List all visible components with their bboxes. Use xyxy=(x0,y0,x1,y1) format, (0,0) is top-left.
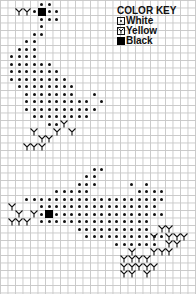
white-stitch-icon xyxy=(108,205,111,208)
white-stitch-icon xyxy=(153,190,156,193)
white-stitch-icon xyxy=(100,213,103,216)
white-stitch-icon xyxy=(115,213,118,216)
white-stitch-icon xyxy=(85,220,88,223)
key-item-black: Black xyxy=(117,36,176,46)
white-stitch-icon xyxy=(138,213,141,216)
white-stitch-icon xyxy=(115,243,118,246)
white-stitch-icon xyxy=(78,108,81,111)
white-stitch-icon xyxy=(85,115,88,118)
cross-stitch-chart: COLOR KEY White Yellow Black xyxy=(0,0,196,294)
yellow-stitch-icon xyxy=(128,270,136,278)
white-stitch-icon xyxy=(78,190,81,193)
yellow-stitch-icon xyxy=(23,8,31,16)
white-stitch-icon xyxy=(55,93,58,96)
white-stitch-icon xyxy=(78,220,81,223)
white-stitch-icon xyxy=(100,205,103,208)
white-stitch-icon xyxy=(55,205,58,208)
white-stitch-icon xyxy=(93,220,96,223)
yellow-stitch-icon xyxy=(150,248,158,256)
yellow-stitch-icon xyxy=(150,263,158,271)
color-key: COLOR KEY White Yellow Black xyxy=(117,6,176,46)
white-stitch-icon xyxy=(130,235,133,238)
white-stitch-icon xyxy=(115,235,118,238)
white-stitch-icon xyxy=(40,85,43,88)
white-stitch-icon xyxy=(100,220,103,223)
white-stitch-icon xyxy=(85,213,88,216)
white-stitch-icon xyxy=(123,198,126,201)
white-stitch-icon xyxy=(70,100,73,103)
white-stitch-icon xyxy=(123,235,126,238)
black-stitch-icon xyxy=(45,210,53,218)
white-stitch-icon xyxy=(40,25,43,28)
yellow-stitch-icon xyxy=(165,248,173,256)
white-stitch-icon xyxy=(48,205,51,208)
white-stitch-icon xyxy=(55,108,58,111)
white-stitch-icon xyxy=(100,235,103,238)
white-stitch-icon xyxy=(108,213,111,216)
white-stitch-icon xyxy=(130,213,133,216)
white-stitch-icon xyxy=(130,228,133,231)
white-stitch-icon xyxy=(40,220,43,223)
white-stitch-icon xyxy=(25,70,28,73)
white-stitch-icon xyxy=(145,243,148,246)
white-stitch-icon xyxy=(48,198,51,201)
white-stitch-icon xyxy=(93,235,96,238)
white-stitch-icon xyxy=(40,3,43,6)
white-stitch-icon xyxy=(93,205,96,208)
white-stitch-icon xyxy=(123,213,126,216)
white-stitch-icon xyxy=(130,220,133,223)
white-stitch-icon xyxy=(130,243,133,246)
white-stitch-icon xyxy=(93,228,96,231)
white-stitch-icon xyxy=(48,3,51,6)
white-stitch-icon xyxy=(63,85,66,88)
white-stitch-icon xyxy=(55,190,58,193)
white-stitch-icon xyxy=(160,213,163,216)
white-stitch-icon xyxy=(138,243,141,246)
white-stitch-icon xyxy=(85,190,88,193)
white-stitch-icon xyxy=(145,213,148,216)
white-stitch-icon xyxy=(85,235,88,238)
white-stitch-icon xyxy=(108,220,111,223)
white-stitch-icon xyxy=(63,78,66,81)
white-stitch-icon xyxy=(85,183,88,186)
white-stitch-icon xyxy=(55,198,58,201)
white-stitch-icon xyxy=(40,100,43,103)
white-stitch-icon xyxy=(55,78,58,81)
yellow-stitch-icon xyxy=(143,270,151,278)
white-stitch-icon xyxy=(70,220,73,223)
white-stitch-icon xyxy=(63,93,66,96)
white-stitch-icon xyxy=(40,198,43,201)
white-stitch-icon xyxy=(115,205,118,208)
white-stitch-icon xyxy=(70,85,73,88)
white-stitch-icon xyxy=(153,205,156,208)
white-stitch-icon xyxy=(100,198,103,201)
white-stitch-icon xyxy=(70,108,73,111)
white-stitch-icon xyxy=(40,33,43,36)
white-stitch-icon xyxy=(25,78,28,81)
white-stitch-icon xyxy=(85,108,88,111)
white-stitch-icon xyxy=(48,123,51,126)
white-stitch-icon xyxy=(48,63,51,66)
white-stitch-icon xyxy=(18,78,21,81)
yellow-stitch-icon xyxy=(120,270,128,278)
yellow-y-icon xyxy=(117,27,125,35)
white-stitch-icon xyxy=(63,198,66,201)
white-stitch-icon xyxy=(33,48,36,51)
white-stitch-icon xyxy=(78,100,81,103)
white-stitch-icon xyxy=(10,78,13,81)
yellow-stitch-icon xyxy=(173,240,181,248)
white-stitch-icon xyxy=(63,190,66,193)
white-stitch-icon xyxy=(93,213,96,216)
white-stitch-icon xyxy=(33,55,36,58)
white-stitch-icon xyxy=(40,78,43,81)
white-stitch-icon xyxy=(33,63,36,66)
white-stitch-icon xyxy=(145,205,148,208)
white-stitch-icon xyxy=(55,18,58,21)
white-stitch-icon xyxy=(108,198,111,201)
white-stitch-icon xyxy=(85,228,88,231)
white-stitch-icon xyxy=(70,198,73,201)
white-stitch-icon xyxy=(145,198,148,201)
white-stitch-icon xyxy=(93,183,96,186)
white-stitch-icon xyxy=(63,205,66,208)
white-stitch-icon xyxy=(85,205,88,208)
